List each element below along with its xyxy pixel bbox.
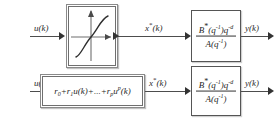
bottom-tf-den-close: )	[224, 94, 227, 104]
poly-u1: u(k)	[73, 86, 88, 96]
nonlinearity-curve-graphic	[67, 5, 115, 65]
polynomial-expression: r0+r1u(k)+...+rpup(k)	[41, 85, 144, 98]
bottom-intermediate-arg: (k)	[157, 78, 167, 88]
top-tf-den-close: )	[224, 39, 227, 49]
bottom-output-wire	[241, 91, 271, 92]
top-input-label: u(k)	[34, 24, 49, 33]
bottom-intermediate-wire	[145, 91, 186, 92]
poly-plus2: +...+	[88, 86, 107, 96]
static-nonlinearity-block[interactable]	[66, 4, 118, 68]
bottom-tf-den-q: (q	[211, 94, 219, 104]
bottom-transfer-function-block[interactable]: B*(q-1)q-d A(q-1)	[191, 66, 241, 116]
bottom-output-arrowhead	[268, 87, 274, 95]
top-tf-num-q2-exp: -d	[228, 24, 233, 30]
bottom-tf-numerator: B*(q-1)q-d	[192, 78, 240, 91]
top-input-wire	[30, 36, 60, 37]
bottom-output-label: y(k)	[245, 79, 259, 88]
top-transfer-function-block[interactable]: B*(q-1)q-d A(q-1)	[191, 10, 241, 62]
bottom-tf-denominator: A(q-1)	[192, 92, 240, 104]
top-intermediate-label: x*(k)	[145, 22, 163, 33]
bottom-tf-num-q2-exp: -d	[228, 79, 233, 85]
bottom-intermediate-label: x*(k)	[149, 77, 167, 88]
top-tf-numerator: B*(q-1)q-d	[192, 23, 240, 36]
top-output-wire	[241, 36, 271, 37]
block-diagram-canvas: u(k) x*(k) B*(q-1)q-d A(q-1) y(k)	[0, 0, 277, 120]
top-tf-denominator: A(q-1)	[192, 37, 240, 49]
top-intermediate-wire	[118, 36, 186, 37]
top-tf-den-q: (q	[211, 39, 219, 49]
polynomial-approximation-block[interactable]: r0+r1u(k)+...+rpup(k)	[40, 74, 145, 108]
poly-up-arg: (k)	[121, 86, 131, 96]
top-output-label: y(k)	[245, 24, 259, 33]
top-input-arrowhead	[59, 32, 65, 40]
top-intermediate-arg: (k)	[153, 23, 163, 33]
top-tf-num-q: (q	[208, 25, 216, 35]
top-output-arrowhead	[268, 32, 274, 40]
bottom-tf-num-q: (q	[208, 80, 216, 90]
bottom-tf-fraction: B*(q-1)q-d A(q-1)	[192, 78, 240, 105]
top-tf-fraction: B*(q-1)q-d A(q-1)	[192, 23, 240, 50]
top-block-input-arrowhead	[113, 32, 119, 40]
